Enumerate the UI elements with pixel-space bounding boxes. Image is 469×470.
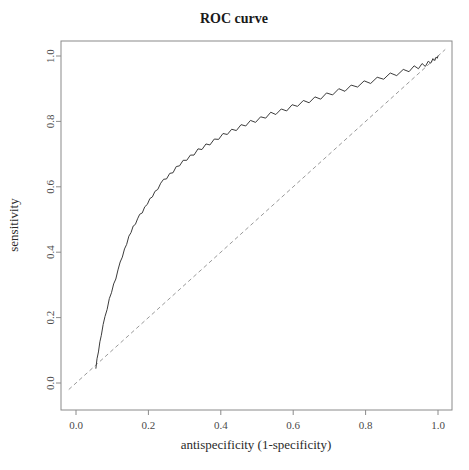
x-tick-label: 0.8 bbox=[359, 419, 373, 431]
chart-title: ROC curve bbox=[200, 11, 268, 26]
y-tick-label: 0.2 bbox=[44, 311, 56, 325]
y-tick-label: 0.0 bbox=[44, 376, 56, 390]
y-tick-label: 0.6 bbox=[44, 179, 56, 193]
x-tick-label: 0.4 bbox=[214, 419, 228, 431]
y-tick-label: 0.4 bbox=[44, 245, 56, 259]
y-tick-label: 0.8 bbox=[44, 114, 56, 128]
y-axis-ticks: 0.00.20.40.60.81.0 bbox=[44, 49, 61, 390]
roc-chart-canvas: ROC curve 0.00.20.40.60.81.0 0.00.20.40.… bbox=[0, 0, 469, 470]
x-axis-ticks: 0.00.20.40.60.81.0 bbox=[69, 410, 445, 431]
y-tick-label: 1.0 bbox=[44, 49, 56, 63]
x-tick-label: 1.0 bbox=[431, 419, 445, 431]
roc-chart-figure: ROC curve 0.00.20.40.60.81.0 0.00.20.40.… bbox=[0, 0, 469, 470]
x-axis-label: antispecificity (1-specificity) bbox=[181, 437, 332, 452]
x-tick-label: 0.6 bbox=[286, 419, 300, 431]
chance-diagonal-line bbox=[69, 49, 445, 389]
x-tick-label: 0.2 bbox=[142, 419, 156, 431]
y-axis-label: sensitivity bbox=[6, 198, 21, 252]
x-tick-label: 0.0 bbox=[69, 419, 83, 431]
